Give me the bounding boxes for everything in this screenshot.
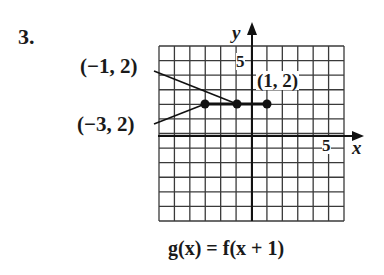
function-caption: g(x) = f(x + 1): [168, 238, 284, 258]
y-axis-arrow-icon: [247, 22, 257, 35]
point-label-1-2: (1, 2): [256, 71, 299, 90]
y-tick-label: 5: [236, 53, 245, 70]
x-axis-label: x: [352, 138, 362, 157]
leader-line-neg3: [154, 104, 205, 124]
x-tick-label: 5: [322, 137, 331, 154]
point-1-2: [263, 100, 272, 109]
problem-number: 3.: [18, 26, 35, 48]
point-label-neg3-2: (−3, 2): [77, 114, 134, 135]
point-neg3-2: [201, 100, 210, 109]
point-neg1-2: [233, 100, 242, 109]
leader-line-neg1: [154, 71, 237, 104]
y-axis-label: y: [232, 23, 240, 42]
point-label-neg1-2: (−1, 2): [80, 56, 137, 77]
